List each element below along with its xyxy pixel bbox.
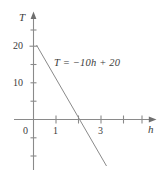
y-axis-label: T xyxy=(19,12,25,23)
origin-label: 0 xyxy=(23,126,28,136)
x-tick-label-1: 1 xyxy=(53,126,58,136)
graph-figure: T h 20 10 0 1 3 T = −10h + 20 xyxy=(0,0,165,174)
x-tick-label-3: 3 xyxy=(98,126,103,136)
x-axis-arrow-icon xyxy=(149,117,157,123)
x-axis-label: h xyxy=(148,124,154,135)
y-tick-label-10: 10 xyxy=(13,78,23,88)
y-tick-label-20: 20 xyxy=(13,41,23,51)
coordinate-plot xyxy=(0,0,165,174)
y-axis-arrow-icon xyxy=(31,12,37,20)
equation-annotation: T = −10h + 20 xyxy=(54,58,120,69)
